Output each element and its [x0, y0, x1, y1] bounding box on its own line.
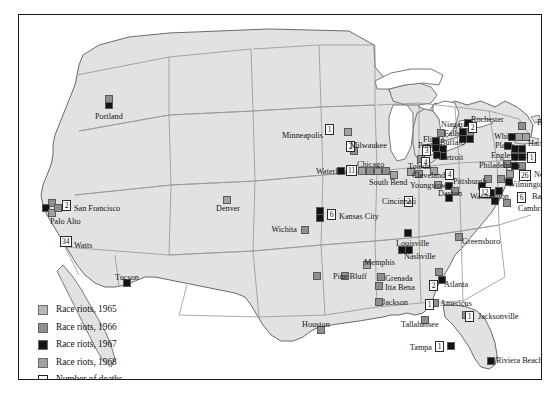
riot-marker [344, 128, 352, 136]
riot-marker [404, 229, 412, 237]
legend-row: Race riots, 1965 [24, 302, 214, 320]
riot-marker [223, 196, 231, 204]
city-label: Dayton [438, 189, 462, 198]
city-label: White [494, 132, 514, 141]
death-count-box: 2 [62, 200, 71, 211]
death-count-box: 1 [527, 152, 536, 163]
city-label: Rochester [471, 115, 504, 124]
riot-marker [497, 175, 505, 183]
city-label: Atlanta [444, 280, 468, 289]
city-label: Americus [440, 299, 472, 308]
city-label: Cleveland [412, 171, 445, 180]
death-count-box: 1 [325, 124, 334, 135]
city-label: Englewood [491, 151, 528, 160]
legend-row: Race riots, 1967 [24, 337, 214, 355]
riot-marker [466, 135, 474, 143]
legend-label: Race riots, 1967 [56, 338, 117, 351]
riot-marker [316, 214, 324, 222]
city-label: South Bend [369, 178, 407, 187]
city-label: Tucson [115, 273, 139, 282]
race-riots-map-figure: 23416112344221266122111 PortlandSan Fran… [0, 0, 557, 398]
city-label: Milwaukee [350, 141, 387, 150]
city-label: Pittsburgh [453, 177, 487, 186]
city-label: Denver [216, 204, 240, 213]
city-label: Tampa [410, 343, 432, 352]
city-label: Memphis [364, 258, 395, 267]
death-count-box: 34 [60, 236, 72, 247]
city-label: Hartford [528, 139, 542, 148]
legend-label: Race riots, 1966 [56, 321, 117, 334]
legend-swatch-y1966 [38, 323, 48, 333]
death-count-box: 11 [346, 165, 357, 176]
city-label: San Francisco [74, 204, 120, 213]
city-label: Baltimore [532, 192, 542, 201]
riot-marker [377, 273, 385, 281]
riot-marker [375, 282, 383, 290]
legend-swatch-open [38, 375, 48, 380]
city-label: Cambridge [518, 204, 542, 213]
legend-label: Race riots, 1968 [56, 356, 117, 369]
riot-marker [518, 122, 526, 130]
legend-label: Race riots, 1965 [56, 303, 117, 316]
city-label: Niagara [441, 120, 467, 129]
riot-marker [54, 204, 62, 212]
riot-marker [105, 95, 113, 103]
city-label: Riviera Beach [496, 356, 542, 365]
riot-marker [506, 170, 514, 178]
city-label: Falls [444, 129, 460, 138]
city-label: Toledo [408, 162, 431, 171]
riot-marker [435, 268, 443, 276]
city-label: Palo Alto [50, 217, 81, 226]
city-label: Philadelphia [479, 161, 520, 170]
riot-marker [301, 226, 309, 234]
death-count-box: 6 [517, 192, 526, 203]
death-count-box: 1 [435, 341, 444, 352]
city-label: Watts [74, 241, 92, 250]
legend-label: Number of deaths [56, 373, 123, 380]
riot-marker [313, 272, 321, 280]
city-label: Greensboro [462, 237, 500, 246]
city-label: Nashville [404, 252, 435, 261]
city-label: Buffalo [440, 138, 465, 147]
death-count-box: 1 [425, 299, 434, 310]
death-count-box: 2 [429, 280, 438, 291]
city-label: Washington [470, 192, 509, 201]
death-count-box: 6 [327, 209, 336, 220]
city-label: Portland [95, 112, 123, 121]
city-label: Jacksonville [478, 312, 518, 321]
riot-marker [487, 357, 495, 365]
map-frame: 23416112344221266122111 PortlandSan Fran… [18, 14, 542, 380]
city-label: Newark [534, 170, 542, 179]
city-label: Jackson [382, 298, 408, 307]
city-label: Minneapolis [282, 131, 323, 140]
city-label: Flint [423, 135, 438, 144]
city-label: Kansas City [339, 212, 379, 221]
city-label: Louisville [396, 239, 429, 248]
city-label: Cincinnati [382, 197, 416, 206]
city-label: Chicago [357, 160, 384, 169]
city-label: Tallahassee [401, 320, 439, 329]
city-label: Wilmington [508, 180, 542, 189]
city-label: Plains [495, 141, 515, 150]
city-label: Houston [302, 320, 330, 329]
legend-swatch-y1967 [38, 340, 48, 350]
city-label: Grenada [385, 274, 413, 283]
city-label: Boston [537, 118, 542, 127]
city-label: Pine Bluff [333, 272, 367, 281]
legend-row: Number of deaths [24, 372, 214, 380]
city-label: Waterloo [316, 167, 346, 176]
legend-row: Race riots, 1966 [24, 320, 214, 338]
legend-row: Race riots, 1968 [24, 355, 214, 373]
city-label: Wichita [271, 225, 297, 234]
legend-swatch-y1965 [38, 305, 48, 315]
riot-marker [447, 342, 455, 350]
map-legend: Race riots, 1965Race riots, 1966Race rio… [24, 302, 214, 380]
city-label: Detroit [440, 153, 463, 162]
legend-swatch-y1968 [38, 358, 48, 368]
city-label: Itta Bena [385, 283, 415, 292]
death-count-box: 1 [465, 311, 474, 322]
